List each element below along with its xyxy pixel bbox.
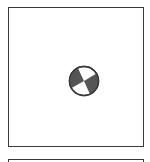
canvas (0, 0, 150, 162)
image-panel-next[interactable] (8, 159, 144, 162)
beachball-icon (68, 65, 100, 97)
image-panel[interactable] (8, 7, 144, 147)
